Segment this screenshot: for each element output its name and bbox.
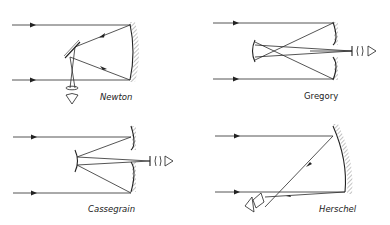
newton-diagonal-mirror [65, 42, 80, 58]
gregory-eye-icon [368, 46, 376, 56]
telescope-diagram: Newton Gregory Ca [0, 0, 390, 225]
newton-eye-icon [66, 94, 78, 105]
herschel-panel: Herschel [215, 124, 357, 214]
gregory-panel: Gregory [213, 21, 376, 102]
herschel-label: Herschel [319, 204, 357, 214]
cassegrain-panel: Cassegrain [13, 126, 173, 214]
newton-eyepiece-lens [66, 86, 78, 90]
cassegrain-label: Cassegrain [88, 204, 135, 214]
newton-label: Newton [100, 92, 132, 102]
herschel-eye-icon [245, 197, 254, 212]
cassegrain-secondary-mirror [75, 150, 78, 172]
newton-panel: Newton [12, 22, 139, 104]
herschel-eyepiece [253, 193, 264, 208]
gregory-secondary-mirror [253, 40, 256, 62]
cassegrain-eye-icon [165, 156, 173, 166]
gregory-label: Gregory [304, 91, 338, 101]
